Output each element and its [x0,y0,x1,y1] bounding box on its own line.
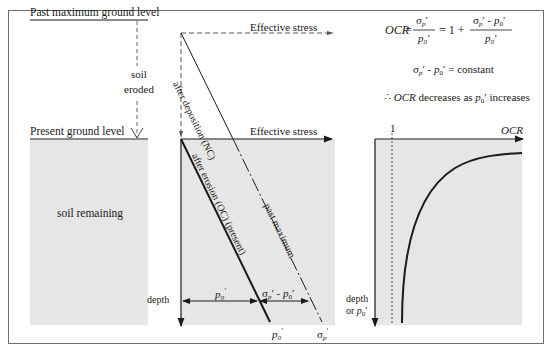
formula-numerator-1: σp′ [416,15,428,28]
p0-dimension-label: p0′ [215,288,226,302]
formula-numerator-2: σp′ - p0′ [473,15,505,28]
left-panel-graphics [30,20,148,325]
formula-denominator-1: p0′ [418,33,429,46]
soil-eroded-label-2: eroded [124,84,154,95]
conclusion-text: ∴ OCR decreases as p0′ increases [384,92,530,105]
p0-bottom-label: p0′ [272,328,283,342]
present-ground-level-label: Present ground level [30,126,125,138]
formula-equals: = [405,24,412,36]
constant-equation: σp′ - p0′ = constant [413,64,494,77]
effective-stress-axis-label: Effective stress [250,126,317,137]
effective-stress-top-label: Effective stress [250,22,317,33]
depth-label: depth [147,295,169,305]
formula-one-plus: = 1 + [439,24,465,36]
sigma-p-bottom-label: σp′ [317,328,328,342]
formula-denominator-2: p0′ [485,33,496,46]
sigma-minus-p0-label: σp′ - p0′ [262,288,294,301]
ocr-axis-one-label: 1 [390,123,396,134]
diagram-graphics [0,0,549,359]
soil-eroded-label-1: soil [131,69,147,80]
past-max-ground-level-label: Past maximum ground level [30,7,159,19]
depth-or-p0-label-1: depth [346,294,368,304]
ocr-axis-label: OCR [501,125,523,136]
depth-or-p0-label-2: or p0′ [346,306,368,318]
soil-remaining-label: soil remaining [57,208,123,220]
